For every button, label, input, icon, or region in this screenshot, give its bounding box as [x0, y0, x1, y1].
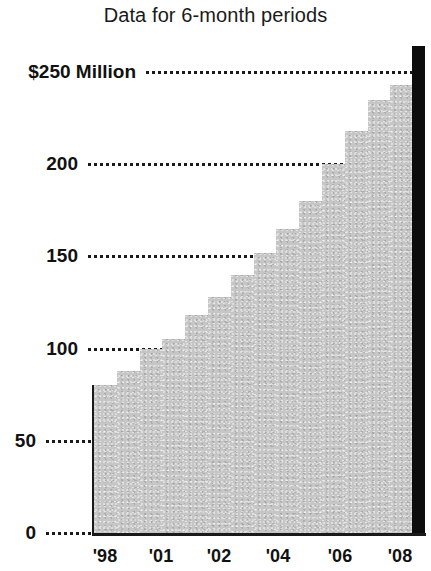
step-series [94, 0, 413, 533]
x-tick-label-0: '98 [80, 547, 130, 565]
x-tick-label-5: '08 [375, 547, 425, 565]
y-tick-label-100: 100 [46, 339, 78, 358]
step-block [254, 253, 277, 533]
step-block [208, 297, 232, 533]
x-tick-label-4: '06 [315, 547, 365, 565]
step-block [185, 315, 209, 533]
y-tick-label-0: 0 [25, 523, 36, 542]
step-block [162, 339, 186, 533]
step-block [231, 275, 255, 533]
end-bar-marker [412, 46, 425, 536]
step-block [94, 385, 118, 533]
y-tick-label-150: 150 [46, 246, 78, 265]
step-block [117, 371, 141, 533]
y-tick-label-50: 50 [15, 431, 36, 450]
step-block [390, 85, 414, 533]
step-block [322, 164, 346, 533]
step-block [140, 349, 163, 533]
x-tick-label-1: '01 [136, 547, 186, 565]
x-tick-label-3: '04 [253, 547, 303, 565]
x-tick-label-2: '02 [194, 547, 244, 565]
plot-area: $250 Million200150100500 '98'01'02'04'06… [0, 0, 431, 571]
step-block [299, 201, 323, 533]
step-block [368, 100, 391, 533]
chart-page: Data for 6-month periods $250 Million200… [0, 0, 431, 571]
y-tick-label-200: 200 [46, 154, 78, 173]
step-block [345, 131, 369, 533]
x-axis-line [92, 533, 426, 536]
step-block [276, 229, 300, 533]
